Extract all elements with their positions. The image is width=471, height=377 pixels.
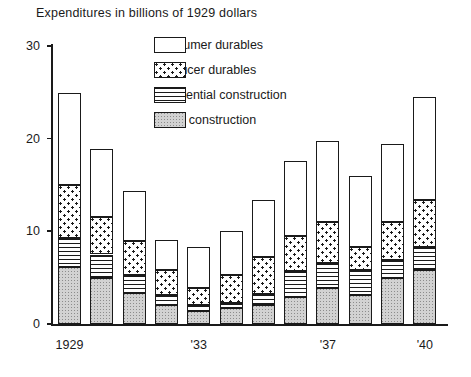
bar-1937 <box>316 46 339 324</box>
y-tick-label: 0 <box>14 317 40 331</box>
bar-segment-consumer <box>220 231 243 275</box>
bar-segment-other <box>187 311 210 324</box>
legend-item: Other construction <box>154 109 287 131</box>
y-axis-line <box>51 44 53 326</box>
bar-segment-producer <box>123 241 146 275</box>
bar-segment-consumer <box>155 240 178 271</box>
bar-segment-producer <box>349 247 372 270</box>
bar-1940 <box>413 46 436 324</box>
bar-segment-producer <box>155 270 178 295</box>
bar-1929 <box>58 46 81 324</box>
bar-segment-consumer <box>413 97 436 200</box>
y-tick-label: 30 <box>14 39 40 53</box>
legend-swatch-other-construction <box>154 112 186 128</box>
bar-segment-producer <box>381 222 404 260</box>
bar-segment-producer <box>187 288 210 305</box>
bar-segment-producer <box>58 185 81 238</box>
bar-segment-other <box>252 305 275 324</box>
bar-segment-other <box>123 293 146 324</box>
bar-segment-other <box>413 270 436 324</box>
bar-segment-residential <box>252 294 275 304</box>
legend-item: Consumer durables <box>154 34 287 56</box>
bar-segment-consumer <box>381 144 404 222</box>
bar-segment-consumer <box>349 176 372 247</box>
chart-legend: Consumer durables Producer durables Resi… <box>154 34 287 134</box>
bar-segment-other <box>155 305 178 324</box>
bar-segment-producer <box>316 222 339 263</box>
legend-item: Producer durables <box>154 59 287 81</box>
bar-segment-residential <box>90 255 113 278</box>
bar-segment-producer <box>284 236 307 271</box>
legend-swatch-residential-construction <box>154 87 186 103</box>
bar-segment-other <box>316 288 339 324</box>
bar-segment-consumer <box>316 141 339 223</box>
bar-1931 <box>123 46 146 324</box>
x-tick-label: '37 <box>320 338 336 352</box>
y-tick-mark <box>47 323 52 325</box>
y-tick-mark <box>47 138 52 140</box>
x-tick-label: 1929 <box>56 338 84 352</box>
bar-segment-consumer <box>284 161 307 236</box>
y-tick-mark <box>47 230 52 232</box>
bar-1938 <box>349 46 372 324</box>
y-tick-mark <box>47 45 52 47</box>
legend-item: Residential construction <box>154 84 287 106</box>
bar-segment-producer <box>413 200 436 247</box>
bar-segment-residential <box>187 305 210 311</box>
bar-segment-other <box>220 308 243 324</box>
bar-segment-producer <box>252 257 275 294</box>
bar-segment-residential <box>155 295 178 305</box>
bar-segment-other <box>58 267 81 324</box>
bar-segment-other <box>349 295 372 324</box>
bar-segment-other <box>284 297 307 324</box>
y-tick-label: 10 <box>14 224 40 238</box>
x-axis-line <box>51 324 448 326</box>
bar-segment-producer <box>220 275 243 303</box>
legend-swatch-consumer-durables <box>154 37 186 53</box>
bar-segment-residential <box>58 238 81 268</box>
bar-segment-consumer <box>187 247 210 288</box>
chart-figure: Expenditures in billions of 1929 dollars… <box>0 0 471 377</box>
bar-segment-consumer <box>58 93 81 185</box>
bar-segment-consumer <box>252 200 275 257</box>
bar-segment-other <box>90 278 113 324</box>
bar-1930 <box>90 46 113 324</box>
bar-segment-consumer <box>123 191 146 240</box>
y-tick-label: 20 <box>14 132 40 146</box>
bar-segment-residential <box>316 263 339 288</box>
bar-segment-residential <box>349 270 372 295</box>
bar-segment-residential <box>123 275 146 294</box>
bar-segment-other <box>381 278 404 324</box>
bar-segment-residential <box>381 260 404 278</box>
bar-1939 <box>381 46 404 324</box>
bar-segment-consumer <box>90 149 113 218</box>
bar-segment-residential <box>220 303 243 309</box>
bar-segment-residential <box>284 271 307 297</box>
legend-swatch-producer-durables <box>154 62 186 78</box>
bar-segment-producer <box>90 217 113 254</box>
bar-segment-residential <box>413 247 436 270</box>
x-tick-label: '33 <box>191 338 207 352</box>
x-tick-label: '40 <box>417 338 433 352</box>
bar-1936 <box>284 46 307 324</box>
